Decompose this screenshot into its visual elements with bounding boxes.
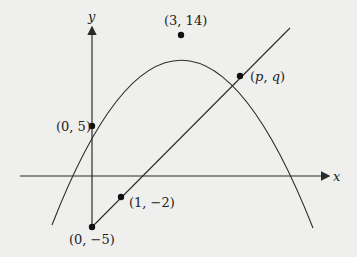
- parabola-curve: [52, 60, 313, 228]
- coordinate-plane: y x (3, 14) (0, 5) (0, −5) (1, −2) (p, q…: [0, 0, 357, 257]
- graph-figure: y x (3, 14) (0, 5) (0, −5) (1, −2) (p, q…: [0, 0, 357, 257]
- y-intercept-parabola-label: (0, 5): [56, 119, 91, 134]
- intersection-label: (p, q): [250, 69, 285, 84]
- vertex-label: (3, 14): [164, 13, 207, 28]
- line-point-dot: [118, 194, 124, 200]
- y-intercept-line-dot: [89, 224, 95, 230]
- x-axis-label: x: [333, 169, 341, 184]
- line-point-label: (1, −2): [129, 195, 175, 210]
- intersection-dot: [237, 73, 243, 79]
- y-intercept-line-label: (0, −5): [69, 232, 115, 247]
- vertex-dot: [178, 32, 184, 38]
- y-axis-label: y: [87, 9, 96, 24]
